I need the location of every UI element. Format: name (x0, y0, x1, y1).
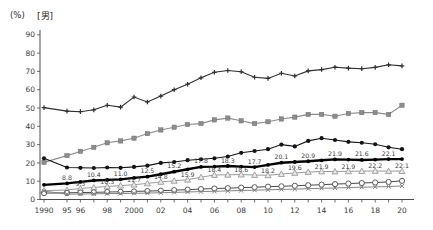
line-3-black-dots-marker (333, 138, 337, 142)
line-2-gray-squares (42, 103, 404, 164)
line-4-bold-black-data-label: 12.5 (141, 167, 155, 174)
line-2-gray-squares-marker (373, 110, 377, 114)
line-1-top-plus-marker (400, 64, 405, 69)
line-3-black-dots-marker (320, 136, 324, 140)
line-5-gray-triangles-data-label: 9.3 (75, 180, 85, 187)
line-4-bold-black-marker (119, 177, 123, 181)
line-5-gray-triangles-data-label: 18.4 (208, 166, 222, 173)
line-6-open-circles-marker (359, 180, 364, 185)
line-4-bold-black-data-label: 8.8 (62, 174, 72, 181)
line-6-open-circles-marker (252, 185, 257, 190)
line-4-bold-black-data-label: 21.9 (328, 150, 342, 157)
x-axis-tick-label: 1990 (34, 206, 53, 215)
line-3-black-dots-marker (360, 141, 364, 145)
line-3-black-dots-marker (253, 149, 257, 153)
y-axis-tick-label: 10 (25, 177, 35, 186)
line-1-top-plus-marker (42, 105, 47, 110)
line-2-gray-squares-marker (400, 103, 404, 107)
line-3-black-dots-marker (239, 151, 243, 155)
x-axis-tick-label: 18 (370, 206, 380, 215)
line-4-bold-black-marker (253, 165, 257, 169)
line-1-top-plus-marker (199, 76, 204, 81)
line-3-black-dots-marker (212, 156, 216, 160)
line-2-gray-squares-marker (185, 122, 189, 126)
line-4-bold-black-data-label: 11.0 (114, 170, 128, 177)
line-2-gray-squares-marker (279, 117, 283, 121)
y-axis-tick-label: 0 (30, 195, 35, 204)
line-4-bold-black-marker (65, 181, 69, 185)
y-axis-tick-label: 20 (25, 159, 35, 168)
line-4-bold-black-marker (400, 157, 404, 161)
line-5-gray-triangles-data-label: 18.6 (234, 166, 248, 173)
plot-area: 0102030405060708090199095969820000204060… (25, 30, 414, 215)
line-6-open-circles-marker (239, 185, 244, 190)
line-4-bold-black-marker (92, 179, 96, 183)
y-axis-tick-label: 80 (25, 49, 35, 58)
line-4-bold-black-data-label: 21.6 (355, 150, 369, 157)
y-axis-tick-label: 70 (25, 67, 35, 76)
line-1-top-plus-marker (252, 75, 257, 80)
line-4-bold-black-data-label: 20.9 (301, 152, 315, 159)
line-6-open-circles-marker (386, 179, 391, 184)
line-1-top-plus-marker (92, 108, 97, 113)
line-3-black-dots-marker (293, 144, 297, 148)
line-2-gray-squares-marker (306, 112, 310, 116)
line-2-gray-squares-marker (293, 115, 297, 119)
line-4-bold-black-marker (373, 158, 377, 162)
line-6-open-circles-marker (399, 178, 404, 183)
x-axis-tick-label: 08 (236, 206, 246, 215)
x-axis-tick-label: 04 (183, 206, 193, 215)
line-1-top-plus-marker (145, 100, 150, 105)
y-axis-tick-label: 90 (25, 30, 35, 39)
line-4-bold-black-data-label: 15.2 (167, 162, 181, 169)
y-axis-unit-label: (%) (10, 10, 25, 20)
line-3-black-dots-marker (65, 165, 69, 169)
line-1-top-plus-marker (306, 69, 311, 74)
line-2-gray-squares-marker (266, 120, 270, 124)
line-1-top-plus-path (44, 65, 402, 112)
line-2-gray-squares-marker (226, 116, 230, 120)
x-axis-tick-label: 95 (62, 206, 72, 215)
line-2-gray-squares-marker (319, 112, 323, 116)
line-4-bold-black-marker (333, 158, 337, 162)
line-2-gray-squares-marker (199, 121, 203, 125)
line-1-top-plus-marker (78, 109, 83, 114)
line-2-gray-squares-marker (78, 149, 82, 153)
line-1-top-plus-marker (346, 66, 351, 71)
line-3-black-dots-marker (400, 147, 404, 151)
line-1-top-plus-marker (105, 103, 110, 108)
y-axis-tick-label: 50 (25, 104, 35, 113)
line-5-gray-triangles-data-label: 14.8 (154, 173, 168, 180)
line-4-bold-black-data-label: 20.1 (275, 153, 289, 160)
line-2-gray-squares-marker (159, 128, 163, 132)
line-2-gray-squares-marker (239, 119, 243, 123)
line-2-gray-squares-marker (145, 131, 149, 135)
line-4-bold-black-marker (146, 175, 150, 179)
line-3-black-dots-marker (306, 139, 310, 143)
y-axis-tick-label: 40 (25, 122, 35, 131)
line-1-top-plus-marker (293, 74, 298, 79)
line-4-bold-black-data-label: 22.1 (382, 150, 396, 157)
line-1-top-plus-marker (386, 63, 391, 68)
line-chart-canvas: (%) [男] 01020304050607080901990959698200… (0, 0, 433, 230)
x-axis-tick-label: 98 (102, 206, 112, 215)
x-axis-tick-label: 06 (210, 206, 220, 215)
chart-figure: (%) [男] 01020304050607080901990959698200… (0, 0, 433, 230)
line-2-gray-squares-marker (333, 114, 337, 118)
line-3-black-dots-marker (92, 166, 96, 170)
line-5-gray-triangles-data-label: 22.2 (368, 162, 382, 169)
line-4-bold-black-marker (199, 165, 203, 169)
x-axis-tick-label: 12 (290, 206, 300, 215)
line-4-bold-black-marker (347, 158, 351, 162)
line-1-top-plus-marker (172, 87, 177, 92)
line-6-open-circles-marker (225, 186, 230, 191)
line-3-black-dots-marker (42, 156, 46, 160)
line-3-black-dots-marker (346, 140, 350, 144)
line-5-gray-triangles-data-label: 22.1 (395, 162, 409, 169)
group-label: [男] (37, 11, 53, 21)
line-2-gray-squares-marker (252, 121, 256, 125)
line-1-top-plus-marker (279, 71, 284, 76)
line-2-gray-squares-marker (172, 125, 176, 129)
x-axis-tick-label: 14 (317, 206, 327, 215)
line-4-bold-black-marker (172, 170, 176, 174)
